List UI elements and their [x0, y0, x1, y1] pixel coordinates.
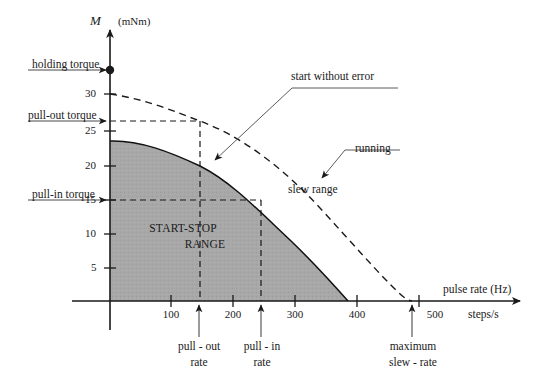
- label-pull-out-rate-line2: rate: [163, 356, 235, 368]
- x-tick-label-400: 400: [343, 309, 371, 321]
- annotation-slew-range: slew range: [288, 183, 338, 195]
- label-maximum-slew-rate-line1: maximum: [368, 340, 458, 352]
- label-pull-out-rate-line1: pull - out: [163, 340, 235, 352]
- label-pull-out-torque: pull-out torque: [28, 109, 97, 121]
- y-tick-label-5: 5: [91, 262, 97, 274]
- x-axis-label-primary: pulse rate (Hz): [443, 283, 511, 295]
- x-tick-label-500: 500: [421, 309, 449, 321]
- y-tick-label-30: 30: [85, 88, 96, 100]
- figure-canvas: M (mNm) 30 25 20 15 10 5 100 200 300 400…: [0, 0, 548, 388]
- y-axis-symbol: M: [90, 14, 101, 28]
- start-stop-shaded-region: [110, 141, 348, 301]
- leader-running: [322, 150, 400, 178]
- region-label-line1: START-STOP: [128, 222, 238, 234]
- x-tick-label-200: 200: [219, 309, 247, 321]
- label-pull-in-torque: pull-in torque: [32, 188, 95, 200]
- holding-torque-marker: [106, 66, 114, 74]
- y-tick-label-10: 10: [85, 228, 96, 240]
- region-label-line2: RANGE: [150, 238, 260, 250]
- annotation-running: running: [355, 142, 391, 154]
- y-axis-unit: (mNm): [118, 16, 150, 28]
- x-tick-label-100: 100: [157, 309, 185, 321]
- x-axis-label-secondary: steps/s: [468, 308, 499, 320]
- y-tick-label-20: 20: [85, 160, 96, 172]
- x-tick-label-300: 300: [281, 309, 309, 321]
- label-maximum-slew-rate-line2: slew - rate: [368, 356, 458, 368]
- label-pull-in-rate-line2: rate: [228, 356, 296, 368]
- label-pull-in-rate-line1: pull - in: [228, 340, 296, 352]
- annotation-start-without-error: start without error: [291, 70, 374, 82]
- y-tick-label-25: 25: [85, 125, 96, 137]
- label-holding-torque: holding torque: [32, 58, 99, 70]
